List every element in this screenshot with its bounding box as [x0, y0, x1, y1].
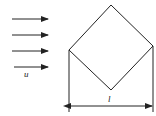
- width-dimension: [69, 46, 153, 112]
- width-label: l: [108, 94, 111, 104]
- diamond-body: [69, 5, 153, 90]
- flow-velocity-label: u: [24, 69, 29, 79]
- flow-diagram: u l: [0, 0, 156, 116]
- flow-arrows: [12, 19, 48, 67]
